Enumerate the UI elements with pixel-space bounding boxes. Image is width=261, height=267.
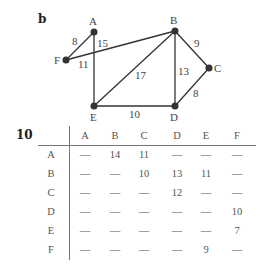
table-horizontal-divider [38,145,256,146]
table-cell: 9 [193,244,219,255]
table-cell: 14 [102,149,128,160]
row-header: E [38,225,64,236]
table-cell: — [164,206,190,217]
column-header: E [193,130,219,141]
table-cell: 11 [131,149,157,160]
table-cell: — [224,149,250,160]
table-cell: — [224,244,250,255]
table-cell: — [131,244,157,255]
table-cell: — [224,187,250,198]
table-cell: — [193,206,219,217]
table-cell: — [102,244,128,255]
node-label-f: F [54,54,60,66]
table-figure-label: 10 [16,128,33,142]
table-cell: — [102,206,128,217]
table-cell: — [164,149,190,160]
node-f [63,57,70,64]
edge-weight-a-e: 15 [97,37,109,49]
table-cell: — [193,149,219,160]
table-cell: — [72,225,98,236]
node-label-a: A [89,15,97,27]
row-header: F [38,244,64,255]
node-label-d: D [170,111,178,123]
edge-weight-a-f: 8 [72,35,78,47]
row-header: B [38,168,64,179]
node-b [172,28,179,35]
table-cell: — [193,225,219,236]
table-cell: — [72,206,98,217]
table-cell: — [72,168,98,179]
column-header: D [164,130,190,141]
table-cell: — [131,206,157,217]
table-cell: — [164,244,190,255]
weighted-graph: A B C D E F 8 15 11 17 13 9 8 10 [0,0,261,125]
table-cell: — [102,168,128,179]
edge-weight-c-d: 8 [193,87,199,99]
table-cell: — [193,187,219,198]
table-vertical-divider [69,126,70,260]
node-label-c: C [214,62,221,74]
node-c [206,65,213,72]
table-cell: — [164,225,190,236]
node-a [91,29,98,36]
table-cell: — [131,225,157,236]
column-header: C [131,130,157,141]
table-cell: — [72,244,98,255]
table-cell: 11 [193,168,219,179]
adjacency-table: A B C D E F A — 14 11 — — — B — — 10 13 … [38,126,258,266]
row-header: C [38,187,64,198]
table-cell: — [72,187,98,198]
table-cell: 10 [224,206,250,217]
table-cell: 10 [131,168,157,179]
node-label-e: E [90,111,97,123]
node-d [172,103,179,110]
row-header: D [38,206,64,217]
edge-weight-e-d: 10 [129,108,141,120]
column-header: A [72,130,98,141]
table-cell: — [102,225,128,236]
edge-weight-e-b: 17 [135,69,147,81]
table-cell: 12 [164,187,190,198]
table-cell: — [131,187,157,198]
table-cell: 7 [224,225,250,236]
row-header: A [38,149,64,160]
node-label-b: B [170,14,177,26]
column-header: B [102,130,128,141]
edge-weight-b-d: 13 [178,65,190,77]
table-cell: — [102,187,128,198]
column-header: F [224,130,250,141]
table-cell: 13 [164,168,190,179]
edge-weight-b-c: 9 [194,37,200,49]
node-e [91,103,98,110]
edge-b-c [175,31,209,68]
table-cell: — [72,149,98,160]
edge-weight-f-b: 11 [78,58,89,70]
table-cell: — [224,168,250,179]
